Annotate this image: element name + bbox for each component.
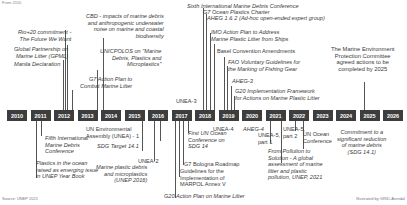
year-box-2019: 2019 — [219, 110, 239, 121]
event-unep-yearbook: Plastics in the oceanraised as emerging … — [36, 160, 98, 180]
source-note: Source: UNEP 2021 — [2, 196, 38, 201]
event-marpol: Guidelines for theImplementation ofMARPO… — [180, 168, 226, 188]
year-box-2013: 2013 — [78, 110, 98, 121]
year-box-2024: 2024 — [336, 110, 356, 121]
year-box-2026: 2026 — [383, 110, 403, 121]
event-imo-plan: IMO Action Plan to AddressMarine Plastic… — [211, 29, 288, 42]
event-fao: FAO Voluntary Guidelines forthe Marking … — [228, 59, 300, 72]
event-commitment: Commitment to asignificant reductionof m… — [337, 129, 386, 155]
connector-line — [63, 60, 64, 110]
connector-line — [175, 121, 176, 198]
year-box-2021: 2021 — [266, 110, 286, 121]
year-box-2018: 2018 — [195, 110, 215, 121]
illustration-credit: Illustrated by GRID-Arendal — [356, 196, 405, 201]
event-mepc: The Marine EnvironmentProtection Committ… — [331, 46, 394, 72]
event-sdg141: SDG Target 14.1 — [97, 143, 139, 150]
connector-line — [214, 44, 215, 110]
year-box-2011: 2011 — [31, 110, 51, 121]
year-box-2014: 2014 — [101, 110, 121, 121]
event-unea5-part1: UNEA-5,part 1 — [258, 132, 280, 145]
event-g7-action-plan: G7 Action Plan toCombat Marine Litter — [80, 76, 132, 89]
event-gpml: Global Partnership onMarine Litter (GPML… — [14, 46, 68, 59]
caption: From 2010 — [2, 0, 21, 5]
year-box-2023: 2023 — [313, 110, 333, 121]
connector-line — [364, 82, 365, 110]
marine-litter-timeline: From 2010 201020112012201320142015201620… — [0, 0, 407, 205]
connector-line — [224, 57, 225, 110]
event-first-ocean-conference: First UN OceanConference onSDG 14 — [188, 130, 227, 150]
event-fifth-conference: Fifth InternationalMarine DebrisConferen… — [45, 135, 88, 155]
year-box-2015: 2015 — [125, 110, 145, 121]
connector-line — [227, 66, 228, 110]
connector-line — [160, 121, 161, 141]
event-unea1: UN EnvironmentalAssembly (UNEA) - 1 — [86, 126, 139, 139]
year-box-2010: 2010 — [7, 110, 27, 121]
year-box-2022: 2022 — [289, 110, 309, 121]
event-unea3: UNEA-3 — [176, 98, 197, 105]
year-box-2025: 2025 — [360, 110, 380, 121]
connector-line — [206, 14, 207, 110]
event-unea5-part2: UNEA-5,part 2 — [283, 126, 305, 139]
event-g20-framework: G20 Implementation Frameworkfor Actions … — [235, 88, 320, 101]
event-un-ocean-conference: UN OceanConference — [303, 131, 332, 144]
event-unea4: UNEA-4 — [213, 126, 234, 133]
connector-line — [183, 121, 184, 165]
event-g20-action-plan: G20 Action Plan on Marine Litter — [164, 193, 245, 200]
year-box-2017: 2017 — [172, 110, 192, 121]
connector-line — [203, 8, 204, 110]
connector-line — [154, 121, 155, 161]
event-rio20: Rio+20 commitment -The Future We Want — [18, 29, 71, 42]
event-basel: Basel Convention Amendments — [217, 48, 295, 55]
event-pollution-to-solution: From Pollution toSolution - A globalasse… — [268, 148, 323, 181]
event-unicpolos: UNICPOLOS on "MarineDebris, Plastics and… — [100, 48, 161, 68]
year-box-2012: 2012 — [54, 110, 74, 121]
connector-line — [41, 121, 42, 136]
event-cbd: CBD - impacts of marine debrisand anthro… — [86, 13, 164, 39]
connector-line — [142, 121, 143, 151]
event-aheg3: AHEG-3 — [232, 78, 253, 85]
year-box-2020: 2020 — [242, 110, 262, 121]
year-box-2016: 2016 — [148, 110, 168, 121]
event-manila: Manila Declaration — [14, 61, 60, 68]
connector-line — [210, 33, 211, 110]
connector-line — [72, 90, 73, 110]
event-aheg-1-2: AHEG 1 & 2 (Ad-hoc open-ended expert gro… — [207, 15, 325, 22]
connector-line — [231, 86, 232, 110]
event-unep2016: Marine plastic debrisand microplastics(U… — [96, 164, 147, 184]
event-g7-bologna: G7 Bologna Roadmap — [184, 161, 239, 168]
